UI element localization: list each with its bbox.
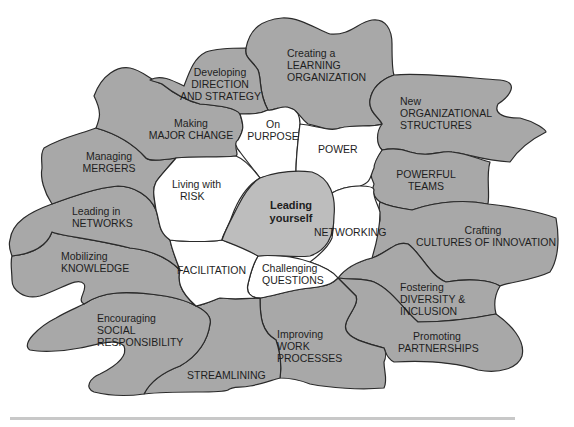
label-on-purpose: On PURPOSE (245, 118, 301, 142)
label-social-responsibility: Encouraging SOCIAL RESPONSIBILITY (97, 312, 183, 348)
label-diversity-inclusion: Fostering DIVERSITY & INCLUSION (400, 281, 465, 317)
label-facilitation: FACILITATION (177, 264, 246, 276)
label-leading-yourself: Leading yourself (256, 199, 326, 225)
label-partnerships: Promoting PARTNERSHIPS (398, 330, 476, 354)
label-major-change: Making MAJOR CHANGE (148, 117, 234, 141)
label-managing-mergers: Managing MERGERS (78, 150, 140, 174)
label-organizational-structures: New ORGANIZATIONAL STRUCTURES (400, 95, 492, 131)
bottom-divider (10, 417, 515, 420)
label-cultures-of-innovation: Crafting CULTURES OF INNOVATION (416, 224, 550, 248)
label-networking: NETWORKING (314, 226, 386, 238)
label-living-with-risk: Living with RISK (172, 178, 221, 202)
label-direction-strategy: Developing DIRECTION AND STRATEGY (180, 66, 260, 102)
label-leading-in-networks: Leading in NETWORKS (72, 205, 133, 229)
label-mobilizing-knowledge: Mobilizing KNOWLEDGE (61, 250, 129, 274)
label-work-processes: Improving WORK PROCESSES (277, 328, 342, 364)
label-learning-organization: Creating a LEARNING ORGANIZATION (287, 47, 366, 83)
label-powerful-teams: POWERFUL TEAMS (393, 168, 459, 192)
label-streamlining: STREAMLINING (187, 369, 266, 381)
label-challenging-questions: Challenging QUESTIONS (262, 262, 324, 286)
label-power: POWER (318, 143, 358, 155)
